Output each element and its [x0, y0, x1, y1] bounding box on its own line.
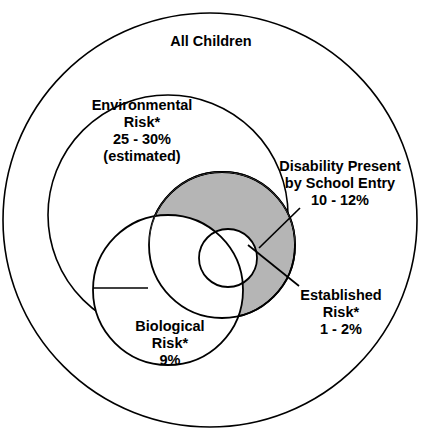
- circle-established-risk: [199, 229, 257, 287]
- label-all-children: All Children: [150, 33, 272, 50]
- label-disability-line2: by School Entry: [272, 175, 408, 192]
- label-disability-present: Disability Present by School Entry 10 - …: [272, 158, 408, 209]
- label-disability-line3: 10 - 12%: [272, 192, 408, 209]
- label-environmental-line1: Environmental: [72, 97, 212, 114]
- label-biological-line2: Risk*: [118, 335, 222, 352]
- label-environmental-line4: (estimated): [72, 148, 212, 165]
- venn-diagram: All Children Environmental Risk* 25 - 30…: [0, 0, 421, 448]
- label-environmental-line3: 25 - 30%: [72, 131, 212, 148]
- label-environmental-risk: Environmental Risk* 25 - 30% (estimated): [72, 97, 212, 165]
- label-established-line1: Established: [286, 287, 396, 304]
- label-biological-risk: Biological Risk* 9%: [118, 318, 222, 369]
- label-established-line2: Risk*: [286, 304, 396, 321]
- label-disability-line1: Disability Present: [272, 158, 408, 175]
- label-biological-line3: 9%: [118, 352, 222, 369]
- label-all-children-line1: All Children: [150, 33, 272, 50]
- label-environmental-line2: Risk*: [72, 114, 212, 131]
- venn-diagram-canvas: [0, 0, 421, 448]
- label-biological-line1: Biological: [118, 318, 222, 335]
- label-established-line3: 1 - 2%: [286, 321, 396, 338]
- label-established-risk: Established Risk* 1 - 2%: [286, 287, 396, 338]
